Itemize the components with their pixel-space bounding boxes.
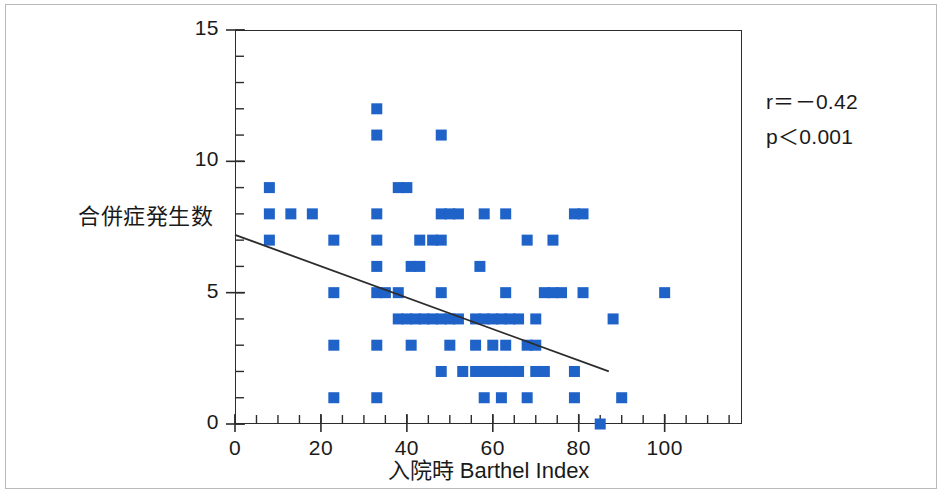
y-tick-label: 0 — [157, 410, 219, 434]
data-point — [285, 208, 296, 219]
data-point — [578, 208, 589, 219]
data-point — [371, 208, 382, 219]
data-point — [436, 366, 447, 377]
data-point — [457, 366, 468, 377]
data-point — [578, 287, 589, 298]
scatter-data-points — [264, 103, 670, 429]
data-point — [500, 208, 511, 219]
data-point — [474, 261, 485, 272]
data-point — [479, 208, 490, 219]
data-point — [371, 130, 382, 141]
statistics-annotation: r＝－0.42 p＜0.001 — [766, 85, 858, 154]
chart-drawing-layer — [0, 0, 942, 494]
data-point — [500, 287, 511, 298]
data-point — [522, 392, 533, 403]
data-point — [569, 366, 580, 377]
data-point — [406, 340, 417, 351]
data-point — [547, 235, 558, 246]
data-point — [264, 182, 275, 193]
data-point — [530, 313, 541, 324]
y-tick-label: 15 — [157, 16, 219, 40]
correlation-annotation: r＝－0.42 — [766, 85, 858, 120]
data-point — [371, 235, 382, 246]
data-point — [569, 392, 580, 403]
data-point — [328, 287, 339, 298]
data-point — [328, 235, 339, 246]
x-axis-minor-ticks — [235, 415, 729, 424]
regression-trendline — [235, 235, 609, 372]
data-point — [539, 366, 550, 377]
data-point — [479, 392, 490, 403]
y-axis-major-ticks — [226, 30, 245, 424]
data-point — [371, 261, 382, 272]
y-tick-label: 5 — [157, 279, 219, 303]
data-point — [401, 182, 412, 193]
data-point — [414, 235, 425, 246]
data-point — [371, 392, 382, 403]
data-point — [522, 235, 533, 246]
data-point — [453, 208, 464, 219]
data-point — [371, 340, 382, 351]
data-point — [513, 313, 524, 324]
data-point — [436, 130, 447, 141]
data-point — [414, 261, 425, 272]
data-point — [470, 340, 481, 351]
data-point — [556, 287, 567, 298]
data-point — [595, 419, 606, 430]
figure-container: 051015 020406080100 合併症発生数 入院時 Barthel I… — [0, 0, 942, 494]
data-point — [487, 340, 498, 351]
y-tick-label: 10 — [157, 147, 219, 171]
data-point — [616, 392, 627, 403]
y-axis-minor-ticks — [235, 30, 244, 424]
data-point — [371, 103, 382, 114]
data-point — [444, 340, 455, 351]
x-axis-title: 入院時 Barthel Index — [235, 452, 742, 484]
data-point — [328, 340, 339, 351]
data-point — [500, 340, 511, 351]
data-point — [608, 313, 619, 324]
data-point — [659, 287, 670, 298]
data-point — [436, 235, 447, 246]
y-axis-title: 合併症発生数 — [78, 198, 213, 230]
data-point — [436, 287, 447, 298]
data-point — [328, 392, 339, 403]
p-value-annotation: p＜0.001 — [766, 120, 858, 155]
data-point — [513, 366, 524, 377]
data-point — [264, 208, 275, 219]
data-point — [496, 392, 507, 403]
data-point — [307, 208, 318, 219]
data-point — [264, 235, 275, 246]
